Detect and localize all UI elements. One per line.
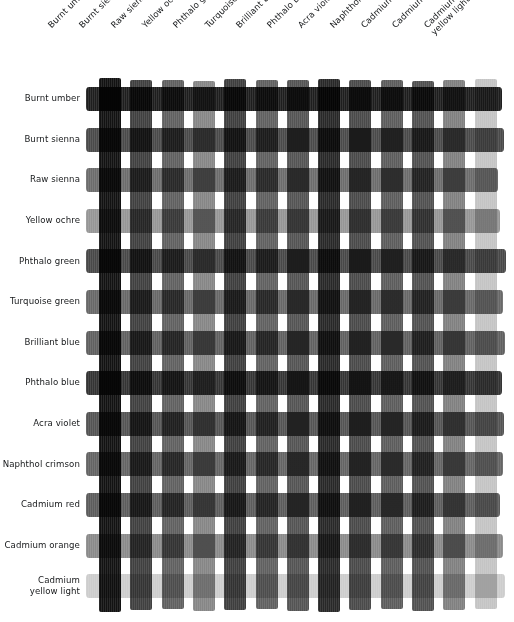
column-stripe bbox=[475, 79, 497, 609]
paint-texture bbox=[256, 80, 278, 609]
row-label: Burnt umber bbox=[0, 93, 86, 104]
row-label: Phthalo blue bbox=[0, 377, 86, 388]
paint-texture bbox=[475, 79, 497, 609]
paint-texture bbox=[162, 80, 184, 609]
row-label: Naphthol crimson bbox=[0, 459, 86, 470]
paint-texture bbox=[224, 79, 246, 610]
row-label: Raw sienna bbox=[0, 174, 86, 185]
paint-texture bbox=[193, 81, 215, 611]
column-stripe bbox=[287, 80, 309, 611]
row-label: Burnt sienna bbox=[0, 134, 86, 145]
column-stripe bbox=[99, 78, 121, 612]
column-stripe bbox=[412, 81, 434, 611]
column-stripe bbox=[224, 79, 246, 610]
column-stripe bbox=[318, 79, 340, 612]
column-stripe bbox=[162, 80, 184, 609]
column-stripe bbox=[256, 80, 278, 609]
paint-mixing-chart: Burnt umberBurnt siennaRaw siennaYellow … bbox=[0, 0, 514, 622]
row-label-axis: Burnt umberBurnt siennaRaw siennaYellow … bbox=[0, 0, 86, 622]
row-label: Brilliant blue bbox=[0, 337, 86, 348]
paint-texture bbox=[130, 80, 152, 610]
column-stripe bbox=[130, 80, 152, 610]
column-stripe bbox=[443, 80, 465, 610]
row-label: Acra violet bbox=[0, 418, 86, 429]
row-label: Turquoise green bbox=[0, 296, 86, 307]
paint-texture bbox=[381, 80, 403, 609]
paint-texture bbox=[443, 80, 465, 610]
row-label: Phthalo green bbox=[0, 256, 86, 267]
row-label: Cadmium yellow light bbox=[0, 575, 86, 596]
column-stripe bbox=[349, 80, 371, 610]
row-label: Cadmium red bbox=[0, 499, 86, 510]
paint-texture bbox=[99, 78, 121, 612]
column-header-axis: Burnt umberBurnt siennaRaw siennaYellow … bbox=[0, 0, 514, 86]
paint-texture bbox=[349, 80, 371, 610]
column-stripe bbox=[381, 80, 403, 609]
paint-texture bbox=[412, 81, 434, 611]
row-label: Yellow ochre bbox=[0, 215, 86, 226]
paint-texture bbox=[318, 79, 340, 612]
row-label: Cadmium orange bbox=[0, 540, 86, 551]
column-stripe bbox=[193, 81, 215, 611]
paint-texture bbox=[287, 80, 309, 611]
